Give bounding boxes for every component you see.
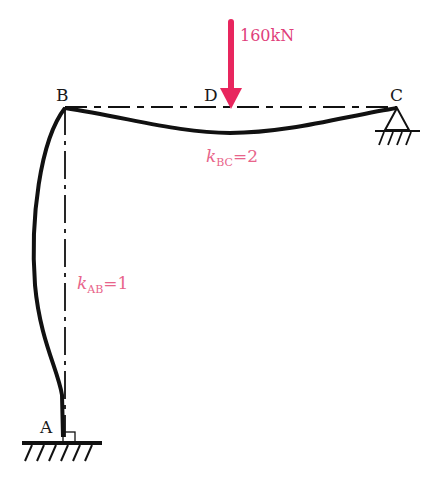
node-label-c: C bbox=[390, 85, 403, 105]
node-label-a: A bbox=[39, 417, 53, 437]
load-arrow bbox=[220, 22, 242, 109]
frame-diagram: 160kN B D C A kBC=2 kAB=1 bbox=[0, 0, 438, 483]
deflected-column-ab bbox=[34, 108, 65, 437]
node-label-d: D bbox=[204, 85, 218, 105]
pinned-support-c bbox=[375, 108, 420, 145]
node-label-b: B bbox=[56, 85, 69, 105]
stiffness-label-bc: kBC=2 bbox=[206, 146, 258, 169]
deflected-beam-bc bbox=[65, 108, 397, 133]
load-label: 160kN bbox=[240, 26, 294, 45]
stiffness-label-ab: kAB=1 bbox=[77, 273, 128, 296]
